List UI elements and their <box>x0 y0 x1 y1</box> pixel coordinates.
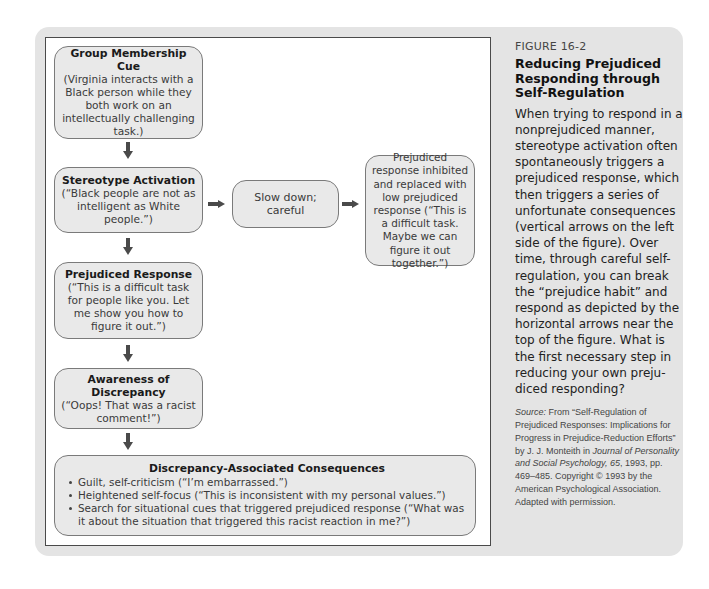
figure-label: FIGURE 16-2 <box>515 40 683 53</box>
figure-caption: FIGURE 16-2 Reducing Prejudiced Respondi… <box>515 40 683 509</box>
figure-title: Reducing Prejudiced Responding through S… <box>515 57 683 101</box>
node-title: Stereotype Activation <box>61 174 196 187</box>
list-item: Guilt, self-criticism (“I’m embarrassed.… <box>69 476 465 489</box>
node-inhibited-response: Prejudiced response inhibited and replac… <box>365 155 475 266</box>
node-slow-down: Slow down; careful <box>232 180 339 228</box>
source-label: Source: <box>515 407 546 417</box>
node-body: (Virginia interacts with a Black person … <box>61 73 196 138</box>
node-title: Awareness of Discrepancy <box>61 373 196 399</box>
arrow-right-icon <box>208 200 225 208</box>
node-body: Slow down; careful <box>239 191 332 217</box>
consequence-list: Guilt, self-criticism (“I’m embarrassed.… <box>69 476 465 528</box>
figure-description: When trying to respond in a nonprejudice… <box>515 106 683 398</box>
arrow-right-icon <box>342 200 359 208</box>
node-title: Discrepancy-Associated Consequences <box>69 462 465 475</box>
node-body: (“This is a difficult task for people li… <box>61 281 196 333</box>
arrow-down-icon <box>123 433 133 450</box>
node-title: Group Membership Cue <box>61 47 196 73</box>
node-stereotype-activation: Stereotype Activation (“Black people are… <box>54 167 203 233</box>
node-body: (“Oops! That was a racist comment!”) <box>61 399 196 425</box>
arrow-down-icon <box>123 345 133 362</box>
node-group-membership-cue: Group Membership Cue (Virginia interacts… <box>54 46 203 139</box>
figure-source: Source: From “Self-Regulation of Prejudi… <box>515 406 683 508</box>
node-body: Prejudiced response inhibited and replac… <box>372 151 468 270</box>
node-prejudiced-response: Prejudiced Response (“This is a difficul… <box>54 262 203 339</box>
node-title: Prejudiced Response <box>61 268 196 281</box>
list-item: Search for situational cues that trigger… <box>69 502 465 528</box>
list-item: Heightened self-focus (“This is inconsis… <box>69 489 465 502</box>
arrow-down-icon <box>123 142 133 159</box>
node-body: (“Black people are not as intelligent as… <box>61 187 196 226</box>
arrow-down-icon <box>123 238 133 255</box>
node-awareness-of-discrepancy: Awareness of Discrepancy (“Oops! That wa… <box>54 368 203 429</box>
node-discrepancy-consequences: Discrepancy-Associated Consequences Guil… <box>54 455 476 536</box>
